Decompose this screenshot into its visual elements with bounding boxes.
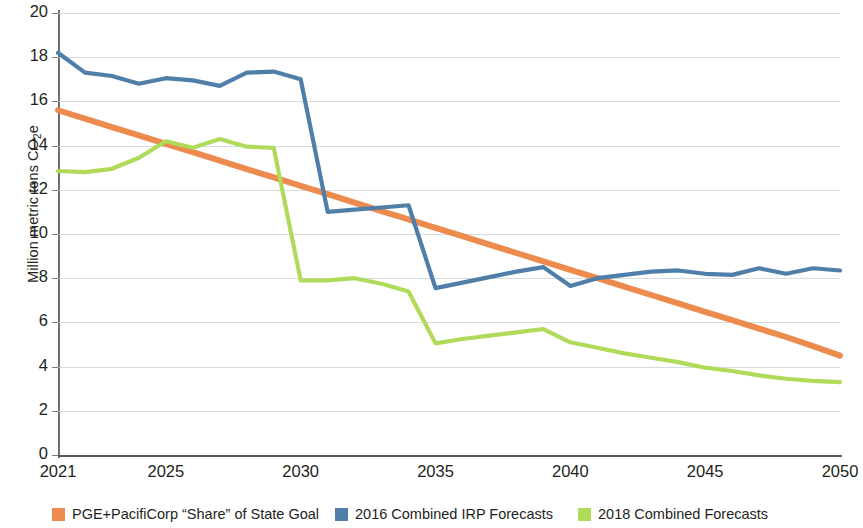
y-axis-label: 10 (8, 223, 48, 242)
x-axis-line (58, 455, 842, 457)
series-line (58, 139, 840, 382)
x-axis-label: 2021 (18, 462, 98, 481)
series-line (58, 53, 840, 288)
series-line (58, 110, 840, 355)
y-axis-label: 18 (8, 46, 48, 65)
legend-item[interactable]: 2016 Combined IRP Forecasts (335, 506, 553, 522)
series-layer (58, 13, 840, 455)
legend-label: PGE+PacifiCorp “Share” of State Goal (72, 506, 319, 522)
x-axis-label: 2035 (396, 462, 476, 481)
y-tick-mark (52, 455, 58, 456)
y-axis-label: 2 (8, 400, 48, 419)
y-axis-label: 4 (8, 356, 48, 375)
legend-label: 2018 Combined Forecasts (598, 506, 768, 522)
y-axis-label: 14 (8, 135, 48, 154)
x-axis-label: 2050 (800, 462, 863, 481)
x-axis-label: 2045 (665, 462, 745, 481)
y-axis-label: 12 (8, 179, 48, 198)
y-axis-title-text: Million metric tons CO (25, 139, 41, 283)
plot-area (58, 13, 840, 455)
legend-swatch-icon (52, 508, 65, 521)
y-axis-label: 6 (8, 311, 48, 330)
legend-item[interactable]: PGE+PacifiCorp “Share” of State Goal (52, 506, 319, 522)
chart-legend: PGE+PacifiCorp “Share” of State Goal2016… (0, 500, 858, 528)
legend-swatch-icon (578, 508, 591, 521)
x-axis-label: 2030 (261, 462, 341, 481)
y-axis-label: 0 (8, 444, 48, 463)
x-axis-label: 2025 (126, 462, 206, 481)
y-axis-label: 16 (8, 90, 48, 109)
legend-swatch-icon (335, 508, 348, 521)
y-axis-label: 20 (8, 2, 48, 21)
legend-item[interactable]: 2018 Combined Forecasts (578, 506, 768, 522)
legend-label: 2016 Combined IRP Forecasts (355, 506, 553, 522)
y-axis-title: Million metric tons CO2e (25, 79, 41, 329)
y-axis-label: 8 (8, 267, 48, 286)
x-axis-label: 2040 (530, 462, 610, 481)
